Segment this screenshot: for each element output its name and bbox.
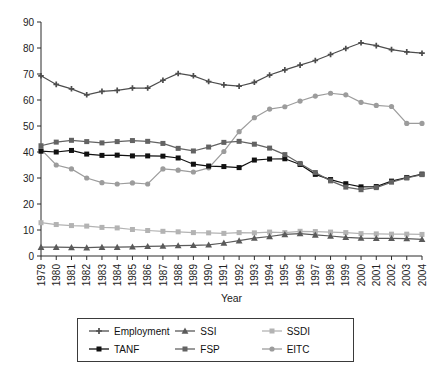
legend-marker-tanf <box>88 344 110 354</box>
chart-page: 0102030405060708090197919801981198219831… <box>0 0 431 369</box>
x-axis-tick-label: 1988 <box>173 264 184 287</box>
x-axis-tick-label: 1994 <box>264 264 275 287</box>
x-axis-tick-label: 2001 <box>371 264 382 287</box>
series-employment <box>38 40 425 98</box>
x-axis-tick-label: 2002 <box>386 264 397 287</box>
series-fsp <box>39 138 425 192</box>
legend-item-eitc: EITC <box>261 344 347 355</box>
y-axis-tick-label: 50 <box>23 121 35 132</box>
y-axis-tick-label: 80 <box>23 43 35 54</box>
chart-plot-area: 0102030405060708090197919801981198219831… <box>0 0 431 305</box>
x-axis-tick-label: 1992 <box>234 264 245 287</box>
series-eitc <box>38 91 424 187</box>
x-axis-tick-label: 1982 <box>81 264 92 287</box>
line-chart: 0102030405060708090197919801981198219831… <box>0 0 431 305</box>
y-axis-tick-label: 60 <box>23 95 35 106</box>
x-axis-tick-label: 2004 <box>417 264 428 287</box>
x-axis-tick-label: 1981 <box>66 264 77 287</box>
legend-item-ssdi: SSDI <box>261 326 347 337</box>
x-axis-tick-label: 1996 <box>295 264 306 287</box>
x-axis-tick-label: 1983 <box>97 264 108 287</box>
legend-label-fsp: FSP <box>200 344 219 355</box>
legend-label-ssdi: SSDI <box>287 326 310 337</box>
y-axis-tick-label: 90 <box>23 17 35 28</box>
legend-label-tanf: TANF <box>114 344 139 355</box>
legend-label-ssi: SSI <box>200 326 216 337</box>
x-axis-tick-label: 1979 <box>36 264 47 287</box>
x-axis-title: Year <box>221 292 243 304</box>
x-axis-tick-label: 1997 <box>310 264 321 287</box>
x-axis-tick-label: 1995 <box>279 264 290 287</box>
legend-marker-employment <box>88 326 110 336</box>
x-axis-tick-label: 1999 <box>340 264 351 287</box>
legend-label-employment: Employment <box>114 326 170 337</box>
y-axis-tick-label: 70 <box>23 69 35 80</box>
x-axis-tick-label: 2003 <box>401 264 412 287</box>
legend-marker-ssdi <box>261 326 283 336</box>
x-axis-tick-label: 1985 <box>127 264 138 287</box>
legend-item-fsp: FSP <box>174 344 260 355</box>
x-axis-tick-label: 1998 <box>325 264 336 287</box>
x-axis-tick-label: 1984 <box>112 264 123 287</box>
y-axis-tick-label: 40 <box>23 147 35 158</box>
legend-marker-fsp <box>174 344 196 354</box>
x-axis-tick-label: 1980 <box>51 264 62 287</box>
x-axis-tick-label: 1986 <box>142 264 153 287</box>
y-axis-tick-label: 10 <box>23 225 35 236</box>
y-axis-tick-label: 30 <box>23 173 35 184</box>
x-axis-tick-label: 1993 <box>249 264 260 287</box>
x-axis-tick-label: 1987 <box>158 264 169 287</box>
series-tanf <box>39 148 425 189</box>
series-ssdi <box>39 220 425 237</box>
x-axis-tick-label: 2000 <box>356 264 367 287</box>
y-axis-tick-label: 20 <box>23 199 35 210</box>
legend-item-ssi: SSI <box>174 326 260 337</box>
legend-label-eitc: EITC <box>287 344 310 355</box>
legend-marker-ssi <box>174 326 196 336</box>
legend-marker-eitc <box>261 344 283 354</box>
legend-item-tanf: TANF <box>88 344 174 355</box>
x-axis-tick-label: 1991 <box>218 264 229 287</box>
chart-legend: Employment SSI SSDI TANF FSP EITC <box>77 318 354 362</box>
x-axis-tick-label: 1989 <box>188 264 199 287</box>
legend-item-employment: Employment <box>88 326 174 337</box>
x-axis-tick-label: 1990 <box>203 264 214 287</box>
legend-grid: Employment SSI SSDI TANF FSP EITC <box>78 319 353 361</box>
y-axis-tick-label: 0 <box>28 251 34 262</box>
